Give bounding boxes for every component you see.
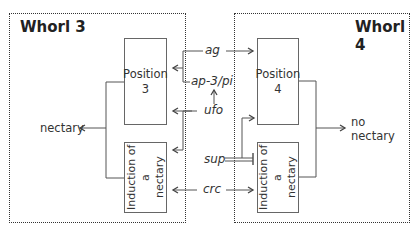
gene-ag: ag [205,43,220,57]
outcome-no-nectary-line2: nectary [351,129,395,143]
position-3-number: 3 [123,82,168,97]
position-4-box: Position 4 [257,38,299,125]
induction-left-line1: Induction of a [125,143,153,212]
outcome-no-nectary-line1: no [351,115,395,129]
gene-ap3-pi: ap-3/pi [190,74,234,88]
position-4-label: Position [256,67,301,82]
gene-crc: crc [203,182,221,196]
gene-ufo: ufo [204,103,223,117]
induction-right-line1: Induction of a [257,143,285,212]
position-4-number: 4 [256,82,301,97]
position-3-box: Position 3 [124,38,167,125]
induction-left-line2: nectary [153,143,167,212]
outcome-no-nectary: no nectary [351,115,395,143]
induction-nectary-box-left: Induction of a nectary [124,142,167,213]
gene-sup: sup [204,152,225,166]
outcome-nectary: nectary [40,121,84,135]
induction-nectary-box-right: Induction of a nectary [257,142,299,213]
position-3-label: Position [123,67,168,82]
induction-right-line2: nectary [285,143,299,212]
